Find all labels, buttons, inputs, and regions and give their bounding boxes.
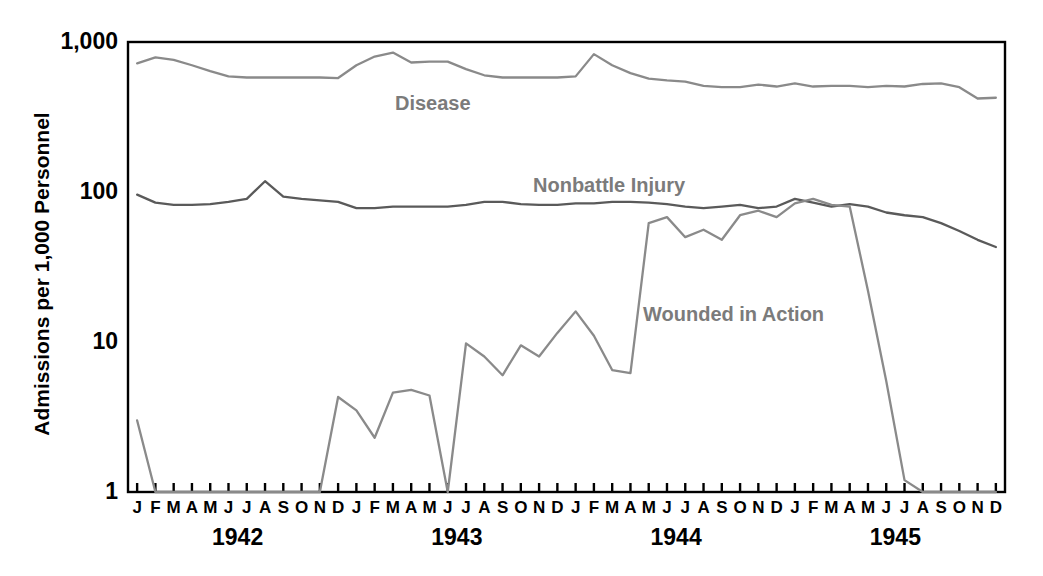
series-line-disease	[137, 53, 996, 99]
x-axis-year-label: 1942	[193, 524, 283, 550]
plot-frame	[128, 42, 1005, 492]
x-axis-month-label: D	[984, 498, 1008, 518]
series-label-disease: Disease	[395, 92, 471, 115]
x-axis-year-label: 1944	[631, 524, 721, 550]
series-label-wounded-in-action: Wounded in Action	[643, 303, 824, 326]
chart-figure: Admissions per 1,000 Personnel 1,0001001…	[0, 0, 1043, 576]
x-axis-year-label: 1945	[850, 524, 940, 550]
chart-plot-area	[0, 0, 1043, 576]
x-axis-year-label: 1943	[412, 524, 502, 550]
x-axis-month-labels: JFMAMJJASONDJFMAMJJASONDJFMAMJJASONDJFMA…	[0, 498, 1043, 524]
x-axis-year-labels: 1942194319441945	[0, 524, 1043, 554]
series-line-wounded-in-action	[137, 199, 996, 492]
series-label-nonbattle-injury: Nonbattle Injury	[533, 174, 685, 197]
